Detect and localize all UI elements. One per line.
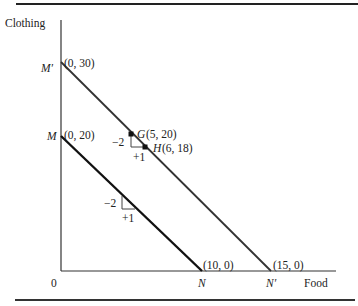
y-axis-label: Clothing <box>5 17 46 30</box>
label-m: M <box>46 130 58 142</box>
budget-line-m-n <box>61 136 202 271</box>
upper-run-label: +1 <box>133 151 145 163</box>
label-h: H <box>152 142 162 154</box>
upper-rise-label: −2 <box>112 136 124 148</box>
x-axis-label: Food <box>304 277 328 289</box>
coord-g: (5, 20) <box>146 128 177 141</box>
label-g: G <box>137 128 146 140</box>
budget-line-diagram: Clothing Food 0 M′ (0, 30) M (0, 20) N (… <box>0 0 358 306</box>
coord-n-prime: (15, 0) <box>273 259 304 272</box>
label-n: N <box>197 277 207 289</box>
coord-m: (0, 20) <box>64 129 95 142</box>
coord-h: (6, 18) <box>162 142 193 155</box>
label-n-prime: N′ <box>265 277 277 289</box>
point-h-marker <box>143 145 148 150</box>
lower-run-label: +1 <box>122 212 134 224</box>
point-g-marker <box>129 132 134 137</box>
slope-triangle-lower <box>122 196 135 209</box>
lower-rise-label: −2 <box>104 197 116 209</box>
coord-m-prime: (0, 30) <box>64 57 95 70</box>
coord-n: (10, 0) <box>203 259 234 272</box>
origin-label: 0 <box>51 277 57 289</box>
label-m-prime: M′ <box>40 62 54 74</box>
